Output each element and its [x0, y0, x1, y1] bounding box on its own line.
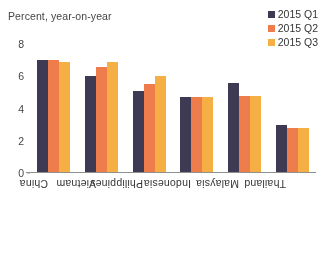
bar-chart: Percent, year-on-year 2015 Q12015 Q22015…	[0, 0, 324, 262]
plot-area: 02468	[30, 44, 316, 173]
bar	[133, 91, 144, 173]
bar	[144, 84, 155, 173]
x-axis-category-cell: Philippines	[125, 178, 173, 260]
x-axis-category-label: Thailand	[244, 178, 286, 190]
chart-axis-title: Percent, year-on-year	[8, 10, 112, 22]
bar	[239, 96, 250, 173]
bar	[276, 125, 287, 173]
bar-groups	[30, 44, 316, 173]
x-axis-category-cell: China	[30, 178, 78, 260]
bar	[191, 97, 202, 173]
legend-item: 2015 Q1	[268, 8, 318, 20]
bar	[180, 97, 191, 173]
bar	[155, 76, 166, 173]
x-axis-category-cell: Vietnam	[78, 178, 126, 260]
x-axis-category-label: China	[19, 178, 47, 190]
y-axis-tick-label: 4	[18, 103, 24, 115]
y-axis-tick-label: 2	[18, 135, 24, 147]
bar	[287, 128, 298, 173]
bar-group	[221, 44, 269, 173]
bar	[48, 60, 59, 173]
bar	[298, 128, 309, 173]
x-axis-category-cell: Malaysia	[221, 178, 269, 260]
bar	[250, 96, 261, 173]
bar	[202, 97, 213, 173]
x-axis-category-label: Philippines	[90, 178, 143, 190]
bar-group	[125, 44, 173, 173]
bar	[107, 62, 118, 173]
x-axis-category-label: Malaysia	[195, 178, 238, 190]
bar	[228, 83, 239, 173]
y-axis-tick-label: 8	[18, 38, 24, 50]
bar	[96, 67, 107, 173]
legend-item: 2015 Q2	[268, 22, 318, 34]
bar	[37, 60, 48, 173]
bar-group	[30, 44, 78, 173]
legend-swatch-icon	[268, 11, 275, 18]
bar	[85, 76, 96, 173]
bar	[59, 62, 70, 173]
y-axis-tick-label: 6	[18, 70, 24, 82]
legend-label: 2015 Q1	[278, 8, 318, 20]
bar-group	[268, 44, 316, 173]
x-axis-line	[26, 172, 316, 174]
x-axis-category-labels: ChinaVietnamPhilippinesIndonesiaMalaysia…	[30, 178, 316, 260]
x-axis-category-label: Indonesia	[144, 178, 191, 190]
x-axis-category-cell: Thailand	[268, 178, 316, 260]
bar-group	[78, 44, 126, 173]
legend-swatch-icon	[268, 25, 275, 32]
bar-group	[173, 44, 221, 173]
legend-label: 2015 Q2	[278, 22, 318, 34]
x-axis-category-cell: Indonesia	[173, 178, 221, 260]
chart-legend: 2015 Q12015 Q22015 Q3	[268, 8, 318, 48]
